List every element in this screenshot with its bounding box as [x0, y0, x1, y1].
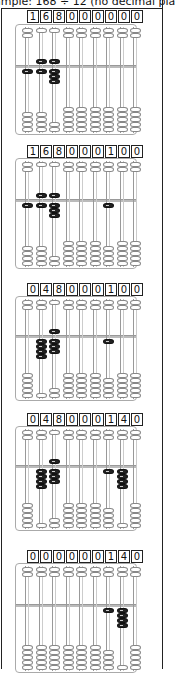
upper-bead: [117, 305, 128, 310]
upper-bead-active: [49, 59, 60, 64]
upper-bead: [49, 300, 60, 305]
lower-bead-active: [36, 69, 47, 74]
lower-bead: [49, 261, 60, 266]
lower-bead: [63, 127, 74, 132]
digit-box: 1: [105, 283, 117, 296]
digit-box: 0: [131, 145, 143, 158]
lower-bead: [36, 665, 47, 670]
lower-bead: [130, 127, 141, 132]
upper-bead: [130, 167, 141, 172]
upper-bead: [49, 28, 60, 33]
upper-bead: [36, 28, 47, 33]
upper-bead: [117, 33, 128, 38]
digit-box: 0: [79, 413, 91, 426]
lower-bead: [117, 127, 128, 132]
lower-bead-active: [117, 484, 128, 489]
upper-bead-active: [36, 193, 47, 198]
digit-box: 1: [105, 413, 117, 426]
lower-bead: [130, 523, 141, 528]
digit-box: 0: [66, 550, 78, 563]
lower-bead-active: [22, 203, 33, 208]
abacus-frame: [15, 426, 137, 531]
lower-bead: [36, 393, 47, 398]
upper-bead: [49, 430, 60, 435]
upper-bead: [63, 305, 74, 310]
upper-bead-active: [49, 193, 60, 198]
digit-box: 8: [53, 10, 65, 23]
abacus-beam: [16, 65, 136, 68]
upper-bead: [130, 33, 141, 38]
upper-bead: [103, 572, 114, 577]
digit-box: 8: [53, 283, 65, 296]
abacus-frame: [15, 296, 137, 401]
upper-bead: [22, 167, 33, 172]
lower-bead: [90, 665, 101, 670]
lower-bead: [130, 261, 141, 266]
lower-bead: [63, 665, 74, 670]
upper-bead: [36, 305, 47, 310]
lower-bead: [36, 261, 47, 266]
lower-bead: [90, 261, 101, 266]
digit-readout: 168000100: [27, 145, 143, 158]
digit-box: 1: [27, 145, 39, 158]
upper-bead: [49, 162, 60, 167]
upper-bead: [36, 162, 47, 167]
abacus-frame: [15, 563, 137, 673]
abacus-frame: [15, 24, 137, 135]
digit-box: 0: [66, 413, 78, 426]
lower-bead: [76, 665, 87, 670]
panel-right-border: [162, 0, 163, 669]
upper-bead: [90, 305, 101, 310]
upper-bead: [63, 33, 74, 38]
digit-box: 0: [79, 145, 91, 158]
upper-bead: [36, 435, 47, 440]
lower-bead-active: [103, 339, 114, 344]
upper-bead: [117, 167, 128, 172]
upper-bead-active: [36, 59, 47, 64]
panel-left-border: [1, 8, 2, 669]
upper-bead: [22, 435, 33, 440]
upper-bead: [22, 305, 33, 310]
digit-box: 8: [53, 413, 65, 426]
upper-bead: [130, 305, 141, 310]
digit-box: 0: [66, 283, 78, 296]
upper-bead: [90, 572, 101, 577]
digit-box: 1: [105, 550, 117, 563]
digit-box: 0: [131, 413, 143, 426]
lower-bead: [76, 261, 87, 266]
lower-bead: [103, 523, 114, 528]
lower-bead: [90, 523, 101, 528]
lower-bead: [22, 127, 33, 132]
digit-box: 0: [66, 145, 78, 158]
lower-bead: [49, 523, 60, 528]
upper-bead-active: [49, 459, 60, 464]
digit-box: 4: [40, 413, 52, 426]
digit-box: 0: [92, 413, 104, 426]
lower-bead: [63, 261, 74, 266]
digit-box: 0: [118, 283, 130, 296]
digit-box: 0: [92, 550, 104, 563]
lower-bead: [76, 127, 87, 132]
abacus-beam: [16, 335, 136, 338]
abacus-beam: [16, 199, 136, 202]
lower-bead: [103, 665, 114, 670]
digit-box: 0: [92, 10, 104, 23]
digit-box: 6: [40, 10, 52, 23]
digit-box: 0: [40, 550, 52, 563]
lower-bead: [90, 127, 101, 132]
upper-bead: [103, 33, 114, 38]
lower-bead: [90, 393, 101, 398]
upper-bead: [90, 167, 101, 172]
upper-bead: [103, 167, 114, 172]
digit-box: 0: [118, 10, 130, 23]
upper-bead: [76, 305, 87, 310]
digit-box: 0: [66, 10, 78, 23]
lower-bead-active: [49, 79, 60, 84]
digit-box: 0: [27, 413, 39, 426]
digit-box: 4: [40, 283, 52, 296]
digit-box: 0: [27, 283, 39, 296]
digit-box: 0: [53, 550, 65, 563]
lower-bead-active: [49, 349, 60, 354]
digit-box: 1: [105, 145, 117, 158]
digit-box: 0: [79, 283, 91, 296]
